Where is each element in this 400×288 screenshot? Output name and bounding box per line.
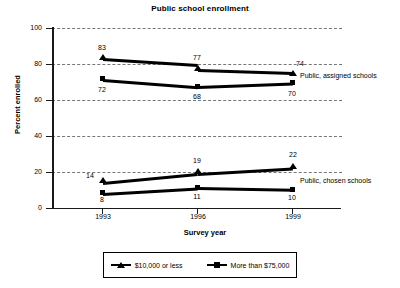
series-assigned-high-segment-2 [197,82,292,88]
y-tick-label-40: 40 [18,132,42,139]
y-tick-label-80: 80 [18,60,42,67]
series-assigned-high-segment-1 [102,79,197,89]
series-assigned-low-segment-2 [197,69,292,75]
chart-legend: $10,000 or less More than $75,000 [103,252,297,278]
data-label: 11 [184,193,210,200]
data-label: 74 [287,60,313,67]
gridline-40 [52,136,342,137]
data-label: 10 [279,194,305,201]
data-point-marker-triangle [99,54,107,60]
y-tick-label-0: 0 [18,204,42,211]
legend-label: More than $75,000 [231,262,290,269]
y-tick-mark-100 [46,28,52,29]
x-tick-label-1993: 1993 [83,213,123,220]
legend-item-10000-or-less: $10,000 or less [111,261,183,269]
data-label: 70 [279,90,305,97]
data-point-marker-square [195,185,200,190]
data-label: 77 [184,54,210,61]
annotation-public-chosen-schools: Public, chosen schools [300,177,371,184]
data-point-marker-square [290,187,295,192]
y-tick-label-60: 60 [18,96,42,103]
data-label: 83 [89,44,115,51]
data-point-marker-square [100,76,105,81]
triangle-marker-icon [111,261,131,269]
data-label: 14 [77,172,103,179]
y-tick-label-100: 100 [18,24,42,31]
data-point-marker-triangle [289,70,297,76]
data-label: 68 [184,93,210,100]
x-tick-label-1996: 1996 [178,213,218,220]
data-label: 8 [89,196,115,203]
legend-label: $10,000 or less [135,262,183,269]
data-label: 22 [280,151,306,158]
y-axis-line [52,27,54,209]
y-tick-mark-40 [46,136,52,137]
gridline-100 [52,28,342,29]
data-point-marker-square [195,84,200,89]
series-chosen-high-segment-2 [197,187,292,191]
chart-title: Public school enrollment [0,4,400,13]
annotation-public-assigned-schools: Public, assigned schools [300,72,377,79]
y-tick-mark-0 [46,208,52,209]
x-tick-label-1999: 1999 [273,213,313,220]
x-axis-title: Survey year [60,228,350,237]
y-tick-mark-20 [46,172,52,173]
data-label: 72 [89,86,115,93]
y-tick-mark-80 [46,64,52,65]
chart-figure: Public school enrollment Percent enrolle… [0,0,400,288]
data-point-marker-square [290,80,295,85]
data-point-marker-triangle [194,65,202,71]
data-point-marker-triangle [194,168,202,174]
y-tick-label-20: 20 [18,168,42,175]
data-point-marker-square [100,190,105,195]
data-point-marker-triangle [289,163,297,169]
series-chosen-low-segment-1 [102,173,197,185]
data-label: 19 [184,157,210,164]
square-marker-icon [207,261,227,269]
y-tick-mark-60 [46,100,52,101]
legend-item-more-than-75000: More than $75,000 [207,261,290,269]
